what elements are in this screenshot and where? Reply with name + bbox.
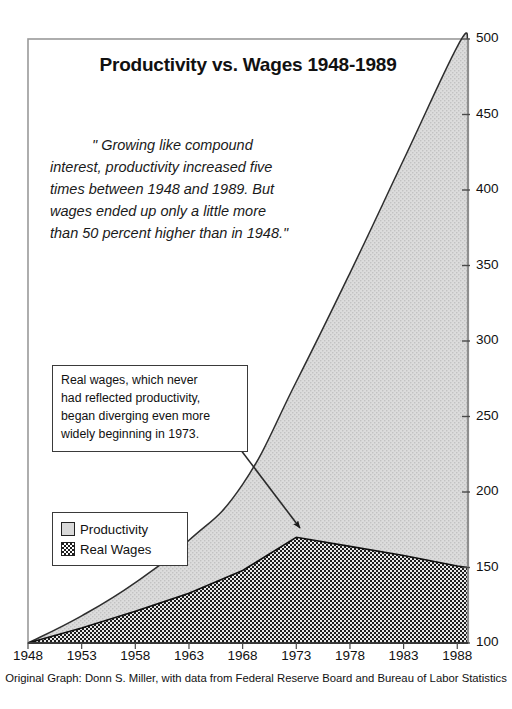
x-axis-tick-label: 1988: [432, 648, 482, 663]
x-axis-tick-label: 1983: [379, 648, 429, 663]
x-axis-tick-label: 1948: [3, 648, 53, 663]
chart-caption: Original Graph: Donn S. Miller, with dat…: [0, 672, 512, 684]
x-axis-tick-label: 1953: [57, 648, 107, 663]
x-axis-tick-label: 1958: [110, 648, 160, 663]
x-axis-tick-label: 1978: [325, 648, 375, 663]
x-axis-tick-label: 1973: [271, 648, 321, 663]
x-axis-tick-label: 1968: [218, 648, 268, 663]
chart-figure: Productivity vs. Wages 1948-1989 " Growi…: [0, 0, 512, 709]
x-axis-labels: 194819531958196319681973197819831988: [0, 0, 512, 709]
x-axis-tick-label: 1963: [164, 648, 214, 663]
